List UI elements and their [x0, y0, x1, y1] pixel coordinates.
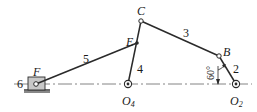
- pivot-O2: [232, 80, 239, 87]
- joint-B: [217, 54, 221, 58]
- label-link-4: 4: [137, 62, 143, 76]
- label-link-6: 6: [17, 77, 23, 91]
- joint-F: [34, 82, 39, 87]
- link-3: [141, 21, 219, 56]
- joint-E: [135, 41, 139, 45]
- label-C: C: [137, 4, 146, 18]
- label-O2: O2: [230, 94, 243, 109]
- label-angle: 60°: [205, 66, 216, 80]
- label-O4: O4: [122, 94, 135, 109]
- label-link-5: 5: [83, 52, 89, 66]
- joint-C: [139, 19, 143, 23]
- pivot-O4: [124, 80, 131, 87]
- linkage-diagram: 6 F 5 E C 4 3 B 2 60° O4 O2: [0, 0, 257, 112]
- label-E: E: [125, 35, 134, 49]
- label-link-3: 3: [183, 26, 189, 40]
- label-B: B: [223, 45, 231, 59]
- label-F: F: [32, 65, 41, 79]
- label-link-2: 2: [233, 62, 239, 76]
